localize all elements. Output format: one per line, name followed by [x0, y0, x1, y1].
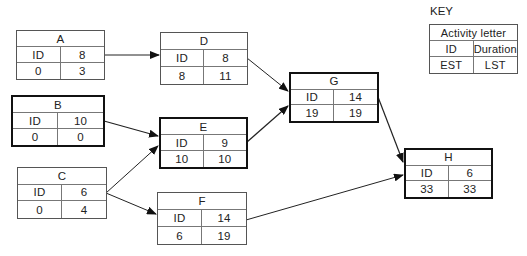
activity-node-d: D ID 8 8 11: [160, 32, 248, 85]
activity-id: ID: [13, 113, 58, 129]
activity-letter: E: [161, 119, 246, 135]
activity-duration: 14: [202, 210, 246, 227]
activity-id: ID: [158, 210, 202, 227]
activity-duration: 6: [449, 166, 492, 182]
activity-id: ID: [406, 166, 449, 182]
activity-duration: 10: [58, 113, 103, 129]
activity-est: 19: [291, 105, 334, 121]
key-duration: Duration: [474, 41, 518, 57]
activity-id: ID: [161, 135, 204, 151]
activity-network-diagram: A ID 8 0 3 B ID 10 0 0 C ID 6 0 4 D ID 8…: [0, 0, 527, 256]
key-est: EST: [430, 57, 474, 73]
activity-lst: 4: [62, 201, 106, 218]
activity-node-g: G ID 14 19 19: [289, 72, 379, 123]
arrow-c-to-e: [106, 146, 158, 193]
activity-letter: F: [158, 193, 246, 210]
activity-letter: A: [17, 31, 104, 47]
activity-letter: G: [291, 74, 377, 90]
activity-est: 0: [13, 129, 58, 145]
activity-est: 10: [161, 151, 204, 167]
activity-lst: 19: [334, 105, 377, 121]
activity-lst: 10: [204, 151, 247, 167]
activity-duration: 8: [61, 47, 105, 63]
activity-letter: D: [161, 33, 247, 50]
activity-est: 6: [158, 227, 202, 244]
activity-node-b: B ID 10 0 0: [11, 95, 105, 147]
activity-id: ID: [161, 50, 204, 67]
activity-id: ID: [291, 90, 334, 106]
activity-est: 33: [406, 181, 449, 197]
activity-lst: 0: [58, 129, 103, 145]
arrow-d-to-g: [247, 58, 288, 91]
activity-id: ID: [18, 185, 62, 202]
activity-duration: 9: [204, 135, 247, 151]
activity-duration: 14: [334, 90, 377, 106]
activity-est: 0: [18, 201, 62, 218]
activity-id: ID: [17, 47, 61, 63]
activity-letter: C: [18, 168, 106, 185]
key-lst: LST: [474, 57, 518, 73]
activity-letter: H: [406, 150, 491, 166]
activity-lst: 3: [61, 63, 105, 79]
key-legend-box: Activity letter ID Duration EST LST: [429, 24, 518, 74]
arrow-e-to-g: [247, 106, 288, 142]
activity-lst: 33: [449, 181, 492, 197]
activity-duration: 8: [204, 50, 247, 67]
key-id: ID: [430, 41, 474, 57]
arrow-c-to-f: [106, 193, 156, 214]
activity-node-a: A ID 8 0 3: [16, 30, 105, 80]
activity-lst: 19: [202, 227, 246, 244]
key-heading: KEY: [430, 5, 453, 17]
activity-node-h: H ID 6 33 33: [404, 148, 493, 199]
arrow-g-to-h: [378, 97, 403, 162]
activity-est: 8: [161, 67, 204, 84]
activity-letter: B: [13, 97, 103, 113]
activity-node-e: E ID 9 10 10: [159, 117, 248, 169]
activity-est: 0: [17, 63, 61, 79]
activity-node-f: F ID 14 6 19: [157, 192, 247, 245]
activity-node-c: C ID 6 0 4: [17, 167, 107, 219]
activity-lst: 11: [204, 67, 247, 84]
activity-duration: 6: [62, 185, 106, 202]
arrow-b-to-e: [104, 121, 158, 136]
arrow-f-to-h: [246, 175, 403, 220]
key-activity-letter: Activity letter: [430, 25, 517, 41]
